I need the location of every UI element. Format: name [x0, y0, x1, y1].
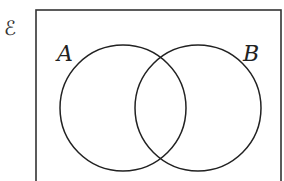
set-a-label: A: [55, 41, 73, 66]
universal-set-frame: [36, 10, 281, 181]
set-a-circle: [60, 45, 186, 171]
universal-set-symbol: ℰ: [4, 16, 16, 40]
venn-diagram: ℰ A B: [0, 0, 284, 181]
set-b-label: B: [242, 41, 259, 66]
